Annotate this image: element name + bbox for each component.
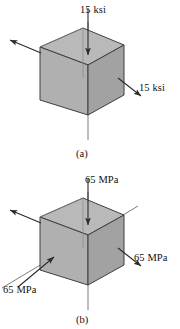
panel-a-cube bbox=[10, 8, 141, 140]
cube-a-left-tension-arrow bbox=[10, 40, 41, 53]
label-a-top-stress: 15 ksi bbox=[80, 4, 106, 15]
figure-root: 15 ksi 15 ksi (a) 65 MPa 65 MPa 65 MPa (… bbox=[0, 0, 180, 329]
stress-element-diagram bbox=[0, 0, 180, 329]
label-b-top-stress: 65 MPa bbox=[85, 174, 119, 185]
cube-b-left-tension-arrow bbox=[10, 210, 41, 223]
label-b-right-stress: 65 MPa bbox=[134, 252, 168, 263]
label-a-right-stress: 15 ksi bbox=[139, 82, 165, 93]
caption-panel-a: (a) bbox=[76, 148, 88, 159]
caption-panel-b: (b) bbox=[76, 314, 88, 325]
label-b-left-stress: 65 MPa bbox=[3, 284, 37, 295]
